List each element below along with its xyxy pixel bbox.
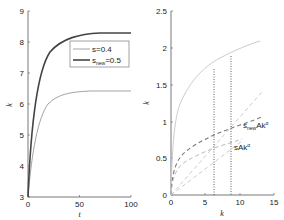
legend-label-s: s=0.4	[92, 45, 112, 54]
figure: 3 4 5 6 7 8 9 0 50 100 t k s=0.4 snew=0.…	[0, 0, 284, 220]
left-plot: 3 4 5 6 7 8 9 0 50 100 t k s=0.4 snew=0.…	[5, 7, 138, 219]
annotation-snew: snewAkα	[243, 120, 269, 131]
right-y-ticks: 0 0.5 1 1.5 2 2.5	[156, 7, 173, 200]
x-tick-label: 50	[75, 200, 84, 209]
y-tick-label: 1.5	[156, 81, 168, 90]
series-s-0.4	[28, 91, 131, 197]
x-tick-label: 15	[270, 198, 279, 207]
y-tick-label: 8	[20, 38, 25, 47]
left-y-label: k	[5, 103, 14, 107]
series-production	[171, 41, 260, 195]
x-tick-label: 5	[203, 198, 208, 207]
y-tick-label: 0	[163, 191, 168, 200]
legend: s=0.4 snew=0.5	[70, 41, 129, 67]
x-tick-label: 10	[236, 198, 245, 207]
right-x-label: k	[220, 209, 224, 218]
y-tick-label: 1	[163, 118, 168, 127]
annotation-s: sAkα	[234, 142, 250, 152]
y-tick-label: 9	[20, 7, 25, 16]
y-tick-label: 2	[163, 44, 168, 53]
y-tick-label: 0.5	[156, 154, 168, 163]
x-tick-label: 0	[26, 200, 31, 209]
y-tick-label: 4	[20, 162, 25, 171]
right-plot: 0 0.5 1 1.5 2 2.5 0 5 10 15 k k	[142, 7, 279, 218]
x-tick-label: 100	[124, 200, 138, 209]
left-x-label: t	[78, 210, 81, 219]
x-tick-label: 0	[169, 198, 174, 207]
y-tick-label: 2.5	[156, 7, 168, 16]
y-tick-label: 3	[20, 193, 25, 202]
y-tick-label: 6	[20, 100, 25, 109]
y-tick-label: 5	[20, 131, 25, 140]
y-tick-label: 7	[20, 69, 25, 78]
right-y-label: k	[142, 101, 151, 105]
